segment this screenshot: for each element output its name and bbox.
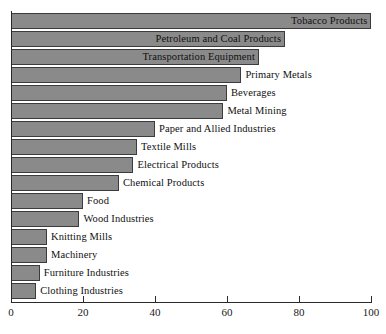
bar[interactable] bbox=[11, 211, 79, 227]
bar-chart: Tobacco ProductsPetroleum and Coal Produ… bbox=[0, 0, 386, 334]
bar-label: Furniture Industries bbox=[44, 264, 129, 281]
bar[interactable] bbox=[11, 265, 40, 281]
bar[interactable] bbox=[11, 283, 36, 299]
x-axis-tick-label: 100 bbox=[363, 306, 380, 318]
x-axis-tick bbox=[371, 296, 372, 303]
x-axis-tick bbox=[155, 296, 156, 303]
bar-label: Primary Metals bbox=[245, 66, 311, 83]
x-axis-tick bbox=[227, 296, 228, 303]
bar-label: Machinery bbox=[51, 246, 97, 263]
bar-label: Beverages bbox=[231, 84, 276, 101]
bar-label: Electrical Products bbox=[137, 156, 219, 173]
x-axis-tick-label: 60 bbox=[222, 306, 233, 318]
bar-label: Paper and Allied Industries bbox=[159, 120, 276, 137]
bar[interactable] bbox=[11, 175, 119, 191]
bar-label: Wood Industries bbox=[83, 210, 153, 227]
x-axis-tick bbox=[11, 296, 12, 303]
y-axis-line bbox=[11, 11, 12, 303]
bar[interactable] bbox=[11, 121, 155, 137]
x-axis-line bbox=[11, 302, 371, 303]
bar[interactable] bbox=[11, 139, 137, 155]
bar[interactable] bbox=[11, 103, 223, 119]
bar[interactable] bbox=[11, 85, 227, 101]
bar-label: Metal Mining bbox=[227, 102, 286, 119]
bar-label: Food bbox=[87, 192, 109, 209]
bar-label: Chemical Products bbox=[123, 174, 204, 191]
bar[interactable] bbox=[11, 193, 83, 209]
bar[interactable] bbox=[11, 229, 47, 245]
x-axis-tick bbox=[83, 296, 84, 303]
bar[interactable] bbox=[11, 247, 47, 263]
x-axis-tick-label: 40 bbox=[150, 306, 161, 318]
bar[interactable] bbox=[11, 67, 241, 83]
bar-label: Clothing Industries bbox=[40, 282, 123, 299]
bar-label: Tobacco Products bbox=[291, 12, 367, 29]
bar-label: Petroleum and Coal Products bbox=[156, 30, 281, 47]
x-axis-tick-label: 0 bbox=[8, 306, 14, 318]
bar-label: Transportation Equipment bbox=[142, 48, 255, 65]
plot-area: Tobacco ProductsPetroleum and Coal Produ… bbox=[11, 11, 371, 302]
x-axis-tick-label: 80 bbox=[294, 306, 305, 318]
x-axis-tick bbox=[299, 296, 300, 303]
bar-label: Knitting Mills bbox=[51, 228, 112, 245]
bar[interactable] bbox=[11, 157, 133, 173]
x-axis-tick-label: 20 bbox=[78, 306, 89, 318]
bar-label: Textile Mills bbox=[141, 138, 196, 155]
